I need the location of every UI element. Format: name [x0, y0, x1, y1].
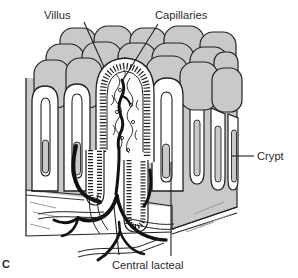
hatch-line [30, 202, 56, 208]
hatch-line [30, 224, 50, 229]
crypt-lumen [215, 126, 221, 182]
central-lacteal-label: Central lacteal [112, 259, 184, 271]
blood-vessel [120, 232, 144, 254]
hatch-line [186, 222, 214, 232]
blood-vessel [54, 218, 78, 223]
villus-dome [212, 68, 242, 112]
blood-vessel [119, 222, 120, 232]
figure-panel: Villus Capillaries Crypt Central lacteal… [0, 0, 298, 278]
capillaries-label: Capillaries [155, 9, 208, 21]
crypt-lumen [43, 140, 49, 173]
panel-letter: C [2, 258, 10, 270]
crypt-lumen [163, 144, 170, 178]
villus-label: Villus [44, 9, 71, 21]
crypt-label: Crypt [257, 150, 285, 162]
intestinal-villi-illustration: Villus Capillaries Crypt Central lacteal… [0, 0, 298, 278]
crypt-lumen [194, 120, 200, 176]
